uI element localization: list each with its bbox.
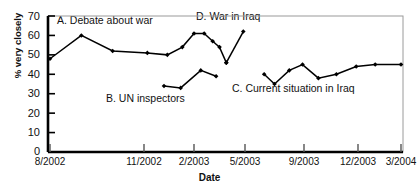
- ticks-group: [48, 16, 401, 152]
- data-point: [334, 72, 339, 77]
- series-3: [224, 29, 246, 65]
- series-group: [48, 29, 404, 90]
- series-line-3: [226, 32, 243, 63]
- series-4: [262, 62, 403, 86]
- data-point: [162, 84, 167, 89]
- data-point: [145, 51, 150, 56]
- series-line-4: [264, 65, 401, 84]
- series-line-2: [164, 70, 216, 87]
- series-2: [162, 68, 219, 90]
- series-line-1: [50, 33, 226, 62]
- data-point: [373, 62, 378, 67]
- data-point: [214, 74, 219, 79]
- series-1: [48, 31, 229, 65]
- plot-area: [0, 0, 419, 192]
- plot-frame: [48, 16, 403, 152]
- data-point: [354, 64, 359, 69]
- axes-group: [48, 16, 403, 152]
- chart-figure: % very closely Date 70 60 50 40 30 20 10…: [0, 0, 419, 192]
